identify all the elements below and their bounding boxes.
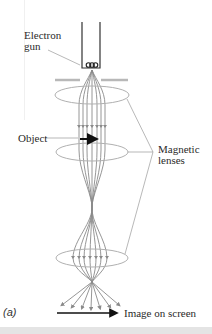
magnetic-lenses-label-line2: lenses: [158, 155, 200, 166]
bottom-divider: [0, 327, 212, 334]
electron-gun-label: Electron gun: [24, 30, 61, 52]
panel-label: (a): [3, 306, 16, 318]
ray-markers-row: [77, 125, 107, 128]
ray-markers-row-lower: [71, 256, 109, 259]
electron-rays: [62, 70, 119, 309]
electron-gun-label-line2: gun: [24, 41, 61, 52]
magnetic-lenses-label: Magnetic lenses: [158, 144, 200, 166]
electron-microscope-diagram: Electron gun Object Magnetic lenses (a) …: [0, 0, 212, 334]
electron-gun-icon: [82, 22, 100, 68]
object-label: Object: [18, 133, 47, 144]
image-on-screen-label: Image on screen: [124, 308, 196, 319]
